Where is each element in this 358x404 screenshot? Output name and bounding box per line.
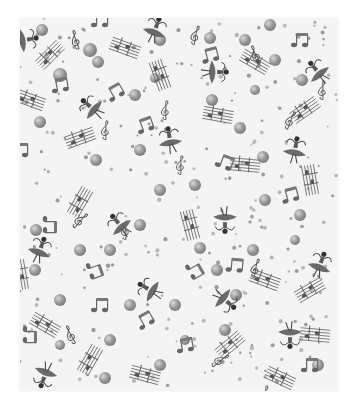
dot: [250, 346, 254, 350]
dot: [23, 225, 26, 228]
bubble: [134, 144, 146, 156]
dot: [257, 26, 260, 29]
bubble: [247, 244, 259, 256]
music-staff-icon: [239, 47, 273, 76]
dot: [161, 119, 164, 122]
dot: [327, 73, 331, 77]
music-staff-icon: [229, 155, 260, 174]
dot: [183, 160, 186, 163]
dot: [147, 356, 149, 358]
dot: [309, 355, 312, 358]
dot: [293, 260, 296, 263]
bubble: [124, 299, 136, 311]
dot: [163, 237, 167, 241]
dot: [129, 168, 132, 171]
ballerina-icon: [213, 206, 237, 234]
dot: [254, 199, 257, 202]
music-staff-icon: [109, 34, 143, 59]
bubble: [257, 151, 269, 163]
ballerina-icon: [156, 124, 184, 155]
dot: [96, 78, 99, 81]
dot: [235, 233, 237, 235]
music-staff-icon: [179, 208, 202, 241]
music-staff-icon: [263, 364, 297, 391]
bubble: [129, 89, 141, 101]
music-staff-icon: [20, 86, 47, 111]
dot: [94, 375, 98, 379]
dot: [299, 348, 303, 352]
music-staff-icon: [33, 38, 66, 71]
dot: [229, 55, 231, 57]
dot: [192, 337, 196, 341]
bubble: [264, 19, 276, 31]
dot: [261, 173, 265, 177]
dot: [30, 328, 33, 331]
dot: [239, 245, 242, 248]
dot: [111, 263, 114, 266]
dot: [85, 106, 87, 108]
dot: [336, 99, 338, 101]
dot: [210, 29, 213, 32]
dot: [280, 175, 284, 179]
dot: [241, 161, 245, 165]
dot: [144, 172, 148, 176]
music-staff-icon: [75, 343, 104, 377]
eighth-note-icon: [225, 257, 243, 273]
treble-clef-icon: [101, 121, 108, 140]
dot: [83, 29, 86, 32]
dot: [208, 252, 211, 255]
dot: [299, 337, 303, 341]
dot: [171, 181, 175, 185]
dot: [248, 220, 251, 223]
dot: [55, 247, 57, 249]
dot: [146, 303, 149, 306]
bubble: [34, 116, 46, 128]
fabric-swatch: [20, 18, 338, 391]
dot: [334, 174, 338, 178]
dot: [29, 81, 33, 85]
music-staff-icon: [29, 310, 63, 339]
dot: [151, 134, 153, 136]
dot: [288, 270, 291, 273]
dot: [206, 82, 210, 86]
dot: [294, 320, 297, 323]
bubble: [55, 340, 65, 350]
dot: [125, 215, 128, 218]
dot: [199, 285, 203, 289]
dot: [176, 28, 180, 32]
dot: [327, 125, 329, 127]
dot: [119, 240, 123, 244]
dot: [58, 36, 62, 40]
dot: [249, 352, 251, 354]
music-staff-icon: [202, 104, 234, 125]
treble-clef-icon: [318, 81, 325, 100]
clef-layer: [62, 25, 325, 391]
dot: [56, 99, 60, 103]
dot: [261, 119, 264, 122]
dot: [279, 319, 283, 323]
dot: [192, 167, 195, 170]
eighth-note-icon: [175, 337, 194, 354]
dot: [98, 337, 101, 340]
bubble: [204, 32, 216, 44]
bubble: [99, 372, 111, 384]
dot: [194, 344, 197, 347]
eighth-note-icon: [134, 310, 156, 331]
dot: [280, 358, 284, 362]
music-staff-icon: [63, 124, 97, 149]
dot: [214, 222, 217, 225]
eighth-note-icon: [104, 82, 126, 103]
bubble: [230, 289, 242, 301]
dot: [51, 131, 55, 135]
dot: [165, 327, 169, 331]
bubble: [134, 219, 146, 231]
dot: [182, 238, 185, 241]
eighth-note-icon: [279, 186, 299, 204]
dot: [57, 93, 59, 95]
dot: [309, 315, 313, 319]
dot: [176, 340, 178, 342]
dot: [285, 142, 288, 145]
dot: [191, 322, 194, 325]
treble-clef-icon: [62, 325, 77, 345]
bubble: [30, 224, 42, 236]
